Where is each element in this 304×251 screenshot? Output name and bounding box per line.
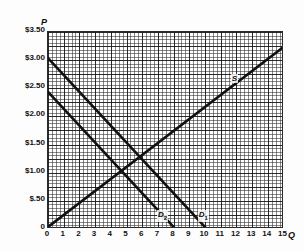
curve-d1: [48, 58, 205, 227]
x-axis-tick-labels: 0123456789101112131415: [0, 229, 304, 249]
supply-demand-chart: P Q $3.50$3.00$2.50$2.00$1.50$1.00$.500 …: [0, 0, 304, 251]
y-tick-label: $3.00: [1, 53, 45, 62]
y-tick-label: $3.50: [1, 25, 45, 34]
curve-label-subscript: 1: [205, 214, 208, 220]
y-tick-label: $.50: [1, 194, 45, 203]
y-axis-tick-labels: $3.50$3.00$2.50$2.00$1.50$1.00$.500: [0, 0, 45, 251]
curve-label-text: S: [232, 74, 237, 83]
y-tick-label: $2.00: [1, 109, 45, 118]
curve-label-subscript: 2: [164, 214, 167, 220]
y-tick-label: $1.50: [1, 138, 45, 147]
x-tick-label: 15: [274, 229, 292, 238]
y-tick-label: $1.00: [1, 166, 45, 175]
curve-label-d2: D2: [157, 210, 168, 223]
plot-area: [47, 31, 283, 228]
curve-label-s: S: [231, 74, 238, 83]
curve-d2: [48, 92, 174, 227]
curves-svg: [48, 32, 282, 227]
curve-label-d1: D1: [198, 210, 209, 223]
y-tick-label: $2.50: [1, 81, 45, 90]
curve-s: [48, 47, 282, 227]
